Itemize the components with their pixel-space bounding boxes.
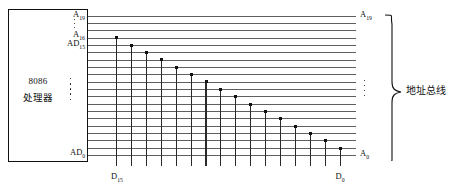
data-line-label-d15: D15 (111, 171, 123, 183)
address-line (88, 60, 356, 61)
address-line (88, 155, 356, 156)
junction-dot (190, 73, 193, 76)
bus-pin-label-a0: A0 (360, 149, 369, 160)
data-line-label-d0: D0 (336, 171, 345, 183)
address-line (88, 104, 356, 105)
data-line (265, 111, 266, 166)
top-margin-spacer (0, 0, 459, 4)
junction-dot (234, 95, 237, 98)
data-line (235, 96, 236, 166)
cpu-name-cn-label: 处理器 (8, 90, 68, 104)
bus-pin-label-a19: A19 (360, 10, 372, 21)
data-line (340, 148, 341, 166)
bus-ellipsis-dots (364, 80, 365, 96)
junction-dot (175, 66, 178, 69)
data-line (280, 118, 281, 166)
junction-dot (309, 132, 312, 135)
junction-dot (130, 44, 133, 47)
address-bus-brace (382, 12, 404, 162)
address-bus-label: 地址总线 (406, 82, 446, 97)
data-line (310, 133, 311, 166)
address-line (88, 148, 356, 149)
address-line (88, 38, 356, 39)
junction-dot (339, 147, 342, 150)
address-line (88, 140, 356, 141)
junction-dot (249, 103, 252, 106)
junction-dot (219, 88, 222, 91)
address-line (88, 30, 356, 31)
address-line (88, 111, 356, 112)
diagram-canvas: 8086 处理器 A19A16AD15AD0 A19A0 D15 D0 地址总线 (0, 0, 459, 186)
data-line (131, 45, 132, 166)
data-line (250, 104, 251, 166)
data-line (205, 82, 206, 166)
address-line (88, 96, 356, 97)
junction-dot (294, 125, 297, 128)
cpu-pin-label-ad0: AD0 (70, 148, 85, 159)
data-line (116, 38, 117, 166)
address-line (88, 133, 356, 134)
junction-dot (160, 58, 163, 61)
address-line (88, 52, 356, 53)
data-line (161, 60, 162, 166)
data-line (176, 67, 177, 166)
cpu-name-label: 8086 (8, 76, 68, 86)
junction-dot (145, 51, 148, 54)
data-line (325, 140, 326, 166)
address-line (88, 82, 356, 83)
junction-dot (205, 80, 208, 83)
address-line (88, 45, 356, 46)
junction-dot (279, 117, 282, 120)
cpu-pin-ellipsis-dots (74, 19, 75, 29)
address-line (88, 74, 356, 75)
data-line (220, 89, 221, 166)
address-line (88, 118, 356, 119)
data-line (146, 52, 147, 166)
address-line (88, 16, 356, 17)
address-line (88, 23, 356, 24)
junction-dot (324, 139, 327, 142)
junction-dot (115, 36, 118, 39)
junction-dot (264, 110, 267, 113)
data-line (295, 126, 296, 166)
cpu-pin-label-ad15: AD15 (67, 39, 85, 50)
address-line (88, 67, 356, 68)
address-line (88, 126, 356, 127)
cpu-ellipsis-dots (70, 78, 71, 100)
data-line (191, 74, 192, 166)
